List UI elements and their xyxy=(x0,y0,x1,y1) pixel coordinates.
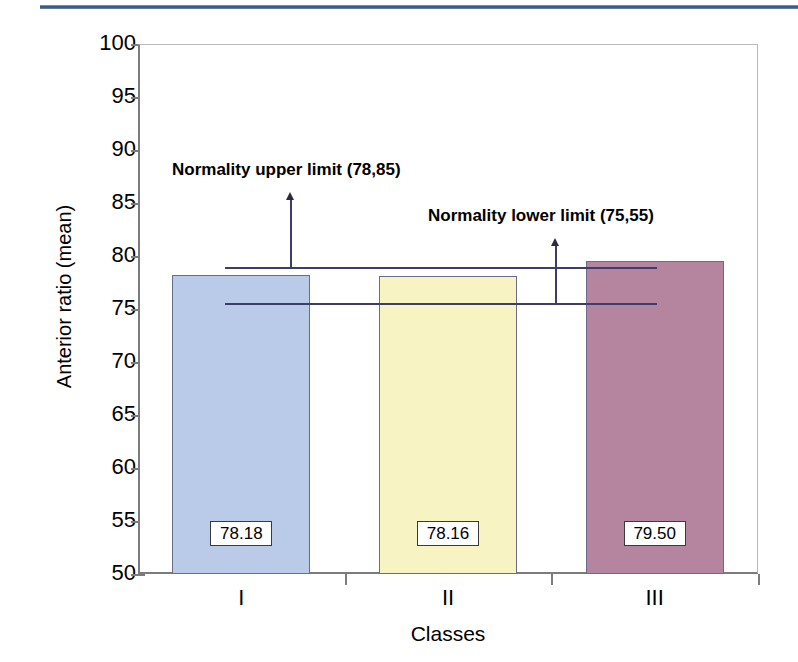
normality-upper-limit-arrow-head xyxy=(286,192,294,200)
normality-lower-limit-annotation: Normality lower limit (75,55) xyxy=(428,206,654,226)
x-axis-tick-label: III xyxy=(595,585,715,611)
normality-upper-limit-arrow-stem xyxy=(290,198,292,268)
bar-value-label: 79.50 xyxy=(624,521,686,546)
y-axis-tick-label: 90 xyxy=(16,136,136,162)
y-axis-tick-label: 65 xyxy=(16,401,136,427)
bar-value-label: 78.18 xyxy=(210,521,272,546)
x-axis-tick-mark xyxy=(758,574,760,585)
y-axis-tick-label: 60 xyxy=(16,454,136,480)
y-axis-tick-label: 100 xyxy=(16,30,136,56)
x-axis-tick-label: II xyxy=(388,585,508,611)
y-axis-tick-label: 75 xyxy=(16,295,136,321)
x-axis-tick-mark xyxy=(551,574,553,585)
normality-upper-limit-annotation: Normality upper limit (78,85) xyxy=(172,160,401,180)
bar-value-label: 78.16 xyxy=(417,521,479,546)
y-axis-tick-label: 85 xyxy=(16,189,136,215)
y-axis-tick-label: 70 xyxy=(16,348,136,374)
normality-lower-limit-arrow-stem xyxy=(555,244,557,304)
normality-lower-limit-line xyxy=(225,303,657,305)
x-axis-tick-label: I xyxy=(181,585,301,611)
x-axis-tick-mark xyxy=(345,574,347,585)
y-axis-tick-label: 95 xyxy=(16,83,136,109)
y-axis-tick-label: 50 xyxy=(16,560,136,586)
bar-chart-figure: Anterior ratio (mean) 100959085807570656… xyxy=(0,0,798,662)
x-axis-title: Classes xyxy=(138,622,758,646)
y-axis-tick-label: 55 xyxy=(16,507,136,533)
normality-lower-limit-arrow-head xyxy=(551,238,559,246)
y-axis-tick-label: 80 xyxy=(16,242,136,268)
y-axis-tick-mark xyxy=(131,574,145,576)
